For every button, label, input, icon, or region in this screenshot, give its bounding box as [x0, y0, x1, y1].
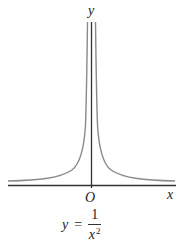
equation-caption: y = 1 x2 [62, 207, 101, 243]
curve-right-branch [96, 22, 176, 181]
denominator-exponent: 2 [96, 226, 101, 236]
origin-label: O [85, 191, 95, 205]
x-axis-label: x [167, 188, 173, 202]
fraction-denominator: x2 [89, 227, 101, 242]
equation-fraction: 1 x2 [88, 208, 101, 242]
curve-left-branch [8, 22, 88, 181]
fraction-bar [88, 224, 101, 225]
y-axis-label: y [88, 4, 94, 18]
fraction-numerator: 1 [88, 208, 101, 222]
denominator-base: x [89, 227, 95, 242]
equation-lhs: y [62, 217, 68, 233]
equation-equals: = [74, 217, 82, 233]
